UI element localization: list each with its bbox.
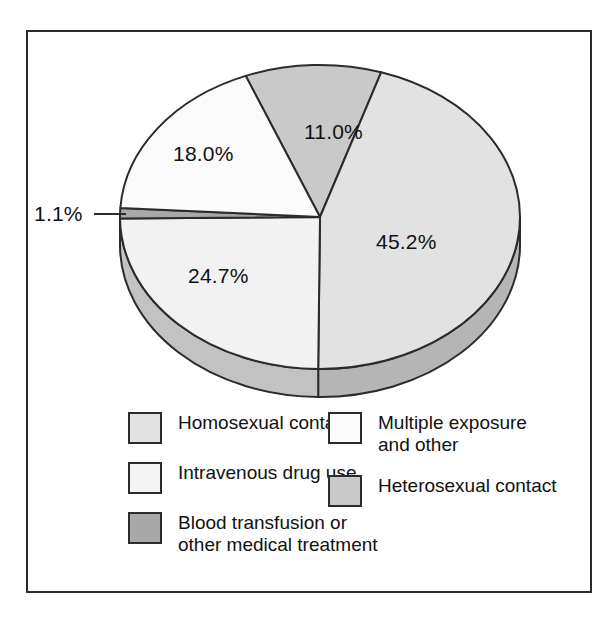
slice-label-blood-transfusion: 1.1% (34, 202, 83, 226)
figure-frame: 11.0% 45.2% 24.7% 1.1% 18.0% Homosexual … (26, 30, 592, 593)
legend-swatch-homosexual-contact (128, 412, 162, 444)
legend-label-line: other medical treatment (178, 534, 378, 556)
legend-item-multiple-exposure[interactable]: Multiple exposure and other (328, 410, 598, 457)
legend-label-multiple-exposure: Multiple exposure and other (378, 410, 527, 457)
legend-swatch-blood-transfusion (128, 512, 162, 544)
legend-label-line: and other (378, 434, 527, 456)
legend-label-line: Heterosexual contact (378, 475, 557, 497)
legend: Homosexual contact Intravenous drug use … (28, 410, 594, 590)
legend-label-line: Multiple exposure (378, 412, 527, 434)
legend-swatch-intravenous-drug-use (128, 462, 162, 494)
legend-swatch-heterosexual-contact (328, 475, 362, 507)
legend-label-homosexual-contact: Homosexual contact (178, 410, 350, 434)
legend-swatch-multiple-exposure (328, 412, 362, 444)
pie-slices (120, 65, 520, 397)
slice-label-homosexual: 45.2% (376, 230, 437, 254)
pie-chart-svg (28, 32, 594, 412)
legend-label-line: Homosexual contact (178, 412, 350, 434)
legend-item-heterosexual-contact[interactable]: Heterosexual contact (328, 473, 598, 507)
legend-column-right: Multiple exposure and other Heterosexual… (328, 410, 598, 523)
slice-label-intravenous: 24.7% (188, 264, 249, 288)
slice-label-multiple-exposure: 18.0% (173, 142, 234, 166)
legend-label-heterosexual-contact: Heterosexual contact (378, 473, 557, 497)
pie-chart: 11.0% 45.2% 24.7% 1.1% 18.0% (28, 32, 594, 412)
slice-label-heterosexual: 11.0% (304, 120, 363, 144)
